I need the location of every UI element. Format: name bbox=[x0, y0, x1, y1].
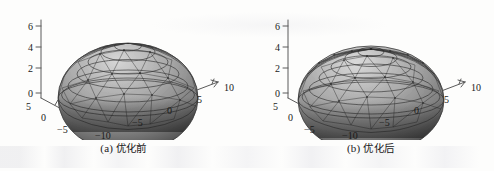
caption-b-label: (b) bbox=[347, 142, 360, 154]
panel-b: 6 4 2 0 5 0 −5 −10 −5 0 5 10 (b) 优化后 bbox=[247, 0, 494, 171]
x-tick-10-b: 10 bbox=[471, 82, 481, 93]
y-tick-neg5-b: −5 bbox=[304, 124, 315, 135]
z-tick-4-a: 4 bbox=[28, 42, 33, 53]
caption-b: (b) 优化后 bbox=[247, 140, 494, 155]
surface-plot-b: 6 4 2 0 5 0 −5 −10 −5 0 5 10 bbox=[247, 0, 494, 140]
z-tick-4-b: 4 bbox=[275, 42, 280, 53]
y-tick-neg5-a: −5 bbox=[57, 124, 68, 135]
caption-a-label: (a) bbox=[100, 142, 113, 154]
caption-a: (a) 优化前 bbox=[0, 140, 247, 155]
x-tick-5-b: 5 bbox=[444, 94, 449, 105]
y-tick-0-b: 0 bbox=[288, 112, 293, 123]
x-tick-neg10-a: −10 bbox=[95, 130, 111, 140]
x-tick-0-a: 0 bbox=[167, 105, 172, 116]
z-tick-6-a: 6 bbox=[28, 21, 33, 32]
y-tick-5-a: 5 bbox=[26, 101, 31, 112]
x-tick-10-a: 10 bbox=[224, 82, 234, 93]
plot-a-canvas: 6 4 2 0 5 0 −5 −10 −5 0 5 10 bbox=[0, 0, 247, 140]
x-tick-neg5-b: −5 bbox=[379, 117, 390, 128]
x-tick-neg10-b: −10 bbox=[342, 130, 358, 140]
y-tick-5-b: 5 bbox=[273, 101, 278, 112]
z-tick-2-a: 2 bbox=[28, 63, 33, 74]
x-tick-0-b: 0 bbox=[414, 105, 419, 116]
z-ticks-a bbox=[36, 26, 41, 93]
z-tick-2-b: 2 bbox=[275, 63, 280, 74]
plot-b-canvas: 6 4 2 0 5 0 −5 −10 −5 0 5 10 bbox=[247, 0, 494, 140]
caption-b-text: 优化后 bbox=[363, 142, 394, 154]
z-ticks-b bbox=[283, 26, 288, 93]
caption-a-text: 优化前 bbox=[116, 142, 147, 154]
y-tick-0-a: 0 bbox=[41, 112, 46, 123]
surface-plot-a: 6 4 2 0 5 0 −5 −10 −5 0 5 10 bbox=[0, 0, 247, 140]
dome-mesh-a bbox=[56, 40, 202, 140]
z-tick-6-b: 6 bbox=[275, 21, 280, 32]
x-tick-5-a: 5 bbox=[197, 94, 202, 105]
figure-two-dome-plots: 6 4 2 0 5 0 −5 −10 −5 0 5 10 (a) 优化前 bbox=[0, 0, 494, 171]
z-tick-0-b: 0 bbox=[275, 88, 280, 99]
z-tick-0-a: 0 bbox=[28, 88, 33, 99]
panel-a: 6 4 2 0 5 0 −5 −10 −5 0 5 10 (a) 优化前 bbox=[0, 0, 247, 171]
dome-mesh-b bbox=[296, 46, 448, 140]
x-tick-neg5-a: −5 bbox=[132, 117, 143, 128]
